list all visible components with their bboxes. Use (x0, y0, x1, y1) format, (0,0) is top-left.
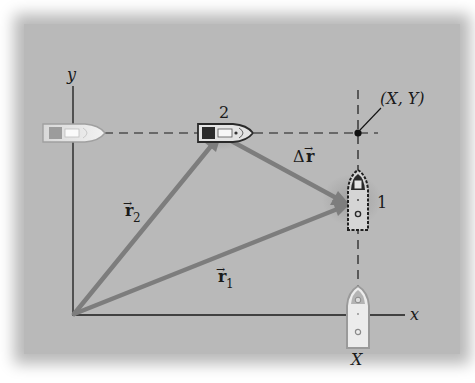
boat-at-position-1 (348, 170, 368, 230)
diagram-svg: y x 2 1 (X, Y) X r → 2 r → 1 Δ r → (0, 0, 475, 383)
delta-r-arrow: → (304, 142, 313, 155)
vector-r1 (74, 200, 350, 314)
point-2-label: 2 (219, 103, 229, 122)
vector-delta-r (224, 137, 350, 205)
delta-symbol: Δ (293, 147, 305, 166)
r1-subscript: 1 (226, 277, 234, 291)
boat-at-position-2 (198, 124, 253, 142)
y-axis-label: y (66, 65, 77, 84)
vector-delta-r-label: Δ r → (293, 142, 315, 166)
vector-r2-label: r → 2 (123, 197, 141, 225)
vector-r1-label: r → 1 (216, 263, 234, 291)
x-coordinate-label: X (349, 350, 363, 369)
x-axis-label: x (410, 305, 419, 324)
boat-on-y-axis (43, 124, 105, 142)
diagram-canvas: y x 2 1 (X, Y) X r → 2 r → 1 Δ r → (0, 0, 475, 383)
r2-subscript: 2 (133, 211, 141, 225)
r1-arrow: → (216, 263, 225, 276)
xy-point-label: (X, Y) (380, 89, 425, 108)
r2-arrow: → (123, 197, 132, 210)
point-1-label: 1 (377, 193, 387, 212)
boat-on-x-axis (347, 286, 369, 348)
